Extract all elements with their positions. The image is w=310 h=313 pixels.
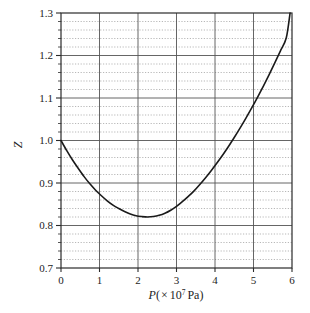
y-axis-title: Z bbox=[11, 141, 25, 148]
x-axis-title-mantissa: 10 bbox=[170, 288, 182, 302]
y-tick-label: 0.9 bbox=[39, 177, 53, 189]
x-tick-label: 3 bbox=[174, 274, 180, 286]
x-axis-title-close-paren: ) bbox=[199, 288, 203, 302]
figure-container: 0.70.80.91.01.11.21.3 0123456 Z P(×107Pa… bbox=[0, 0, 310, 313]
x-axis-title-exponent: 7 bbox=[182, 288, 186, 297]
x-tick-label: 6 bbox=[289, 274, 295, 286]
chart-svg: 0.70.80.91.01.11.21.3 0123456 Z P(×107Pa… bbox=[0, 0, 310, 313]
y-tick-label: 1.3 bbox=[39, 7, 53, 19]
x-tick-label: 1 bbox=[97, 274, 103, 286]
x-axis-title-times-sign: × bbox=[161, 288, 168, 302]
y-tick-label: 0.7 bbox=[39, 262, 53, 274]
x-tick-label: 5 bbox=[251, 274, 257, 286]
x-tick-label: 0 bbox=[58, 274, 64, 286]
y-tick-label: 1.1 bbox=[39, 92, 53, 104]
y-tick-label: 1.0 bbox=[39, 134, 53, 146]
x-axis-title-unit: Pa bbox=[187, 288, 200, 302]
x-axis-title: P(×107Pa) bbox=[148, 288, 204, 302]
x-tick-label: 2 bbox=[135, 274, 141, 286]
x-axis-title-open-paren: ( bbox=[156, 288, 160, 302]
y-tick-label: 1.2 bbox=[39, 49, 53, 61]
x-tick-label: 4 bbox=[212, 274, 218, 286]
y-tick-label: 0.8 bbox=[39, 219, 53, 231]
